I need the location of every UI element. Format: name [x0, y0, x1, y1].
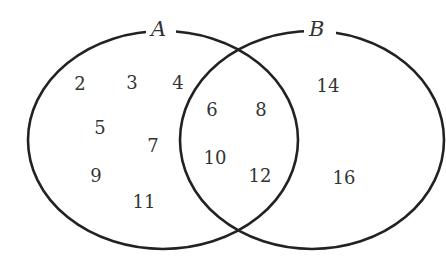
venn-diagram: A B 2 3 4 5 7 9 11 6 8 10 12 14 16 [0, 0, 446, 264]
element-a-only: 4 [172, 72, 183, 93]
element-intersection: 10 [204, 147, 227, 168]
element-intersection: 6 [206, 99, 217, 120]
element-a-only: 9 [90, 165, 101, 186]
element-b-only: 16 [333, 167, 356, 188]
element-intersection: 8 [255, 99, 266, 120]
set-b-outline [180, 31, 444, 249]
set-a-outline [28, 31, 298, 249]
set-a-label: A [149, 17, 166, 41]
set-b-label: B [308, 17, 324, 41]
element-a-only: 2 [74, 73, 85, 94]
element-a-only: 11 [133, 191, 156, 212]
element-a-only: 5 [94, 117, 105, 138]
element-a-only: 3 [126, 72, 137, 93]
element-a-only: 7 [147, 135, 158, 156]
element-intersection: 12 [249, 165, 272, 186]
element-b-only: 14 [317, 75, 340, 96]
